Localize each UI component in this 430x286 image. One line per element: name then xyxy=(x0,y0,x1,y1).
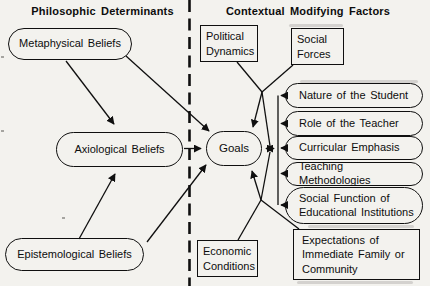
scan-speck xyxy=(1,56,4,58)
diagram-canvas: Philosophic Determinants Contextual Modi… xyxy=(0,0,430,286)
node-label: Role of the Teacher xyxy=(299,117,399,131)
node-metaphysical-beliefs: Metaphysical Beliefs xyxy=(8,28,132,60)
node-label: Axiological Beliefs xyxy=(74,143,164,157)
edge-top-junction-to-goals xyxy=(253,92,262,127)
node-label: Curricular Emphasis xyxy=(299,141,400,155)
node-teaching-methodologies: Teaching Methodologies xyxy=(285,162,423,186)
edge-bottom-junction-to-goals xyxy=(252,171,261,200)
edge-metaphysical-to-axiological xyxy=(66,61,114,124)
node-nature-of-the-student: Nature of the Student xyxy=(285,83,423,108)
scan-smear xyxy=(297,281,413,284)
edge-bottom-junction-to-bus xyxy=(261,152,270,200)
node-label: Epistemological Beliefs xyxy=(17,248,132,262)
edge-epistemological-to-axiological xyxy=(79,174,115,239)
node-label: Goals xyxy=(219,141,249,155)
node-label: Expectations of Immediate Family or Comm… xyxy=(302,233,417,277)
node-label: Social Function of Educational Instituti… xyxy=(299,192,418,220)
scan-speck xyxy=(1,130,4,132)
node-label: Metaphysical Beliefs xyxy=(19,37,121,51)
section-header-contextual: Contextual Modifying Factors xyxy=(213,5,403,17)
node-axiological-beliefs: Axiological Beliefs xyxy=(56,132,183,167)
edge-political-to-junction xyxy=(237,62,262,92)
section-header-philosophic: Philosophic Determinants xyxy=(20,5,185,17)
scan-smear xyxy=(289,24,343,27)
node-social-function-educational-institutions: Social Function of Educational Instituti… xyxy=(285,187,423,224)
node-label: Social Forces xyxy=(297,32,341,61)
node-curricular-emphasis: Curricular Emphasis xyxy=(285,136,423,160)
node-goals: Goals xyxy=(206,131,262,166)
edge-economic-to-junction xyxy=(238,200,261,240)
node-label: Teaching Methodologies xyxy=(299,160,418,188)
node-label: Economic Conditions xyxy=(203,244,255,273)
node-political-dynamics: Political Dynamics xyxy=(200,25,258,62)
node-expectations-family-community: Expectations of Immediate Family or Comm… xyxy=(293,229,420,280)
scan-smear xyxy=(308,225,414,228)
node-label: Political Dynamics xyxy=(206,29,255,58)
node-epistemological-beliefs: Epistemological Beliefs xyxy=(5,238,144,271)
node-label: Nature of the Student xyxy=(299,89,408,103)
node-role-of-the-teacher: Role of the Teacher xyxy=(285,111,423,136)
scan-speck xyxy=(62,217,65,219)
node-social-forces: Social Forces xyxy=(291,28,344,65)
edge-epistemological-to-goals xyxy=(147,165,206,242)
node-economic-conditions: Economic Conditions xyxy=(197,240,258,277)
edge-metaphysical-to-goals xyxy=(126,56,209,131)
edge-top-junction-to-bus xyxy=(262,92,270,146)
